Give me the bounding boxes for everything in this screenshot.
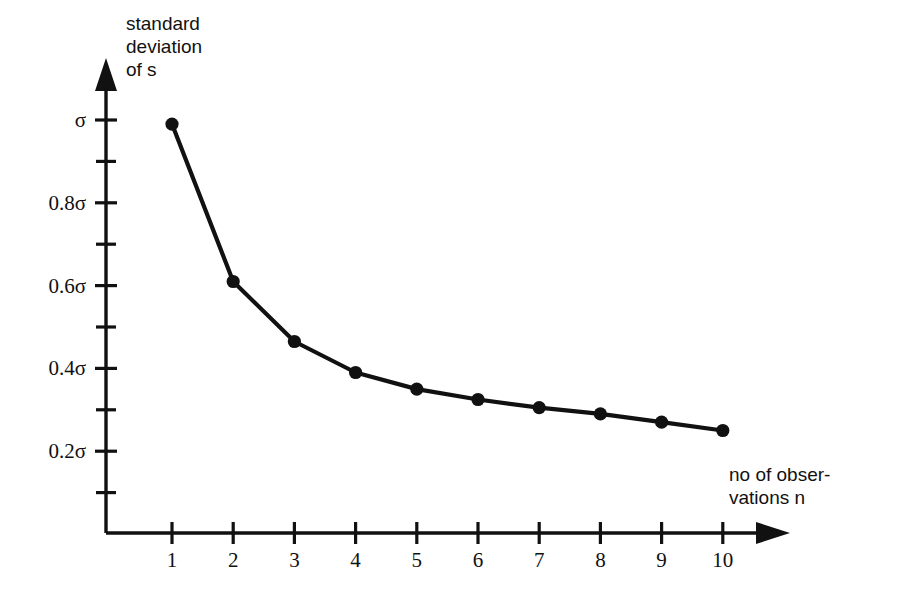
y-axis-tick-label: 0.6σ	[48, 274, 86, 298]
x-axis-title: no of obser-vations n	[729, 463, 830, 509]
x-axis-tick-label: 5	[412, 548, 423, 572]
y-axis-tick-label: 0.4σ	[48, 356, 86, 380]
data-series	[165, 118, 729, 438]
y-axis-tick-label: 0.2σ	[48, 439, 86, 463]
axis-title-line: of s	[126, 58, 202, 81]
data-point-marker	[165, 118, 178, 131]
data-point-marker	[533, 401, 546, 414]
data-point-marker	[227, 275, 240, 288]
data-point-marker	[471, 393, 484, 406]
data-point-marker	[716, 424, 729, 437]
data-point-marker	[655, 416, 668, 429]
x-axis-tick-label: 2	[228, 548, 239, 572]
axis-title-line: no of obser-	[729, 463, 830, 486]
axis-title-line: deviation	[126, 35, 202, 58]
y-axis-tick-label: σ	[75, 108, 86, 132]
series-line	[172, 124, 723, 430]
x-axis-tick-label: 7	[534, 548, 545, 572]
x-axis-tick-label: 10	[712, 548, 733, 572]
x-axis-tick-label: 1	[167, 548, 178, 572]
axis-title-line: vations n	[729, 486, 830, 509]
data-point-marker	[288, 335, 301, 348]
x-axis-tick-label: 3	[289, 548, 300, 572]
data-point-marker	[349, 366, 362, 379]
data-point-marker	[410, 383, 423, 396]
x-axis-tick-label: 8	[595, 548, 606, 572]
chart-container: σ0.8σ0.6σ0.4σ0.2σ 12345678910 standardde…	[0, 0, 900, 605]
x-axis-tick-label: 4	[350, 548, 361, 572]
x-axis-arrow-icon	[756, 522, 790, 544]
y-axis: σ0.8σ0.6σ0.4σ0.2σ	[48, 58, 117, 533]
data-point-marker	[594, 407, 607, 420]
x-axis-tick-label: 9	[656, 548, 667, 572]
y-axis-arrow-icon	[95, 58, 117, 91]
chart-canvas: σ0.8σ0.6σ0.4σ0.2σ 12345678910	[0, 0, 900, 605]
x-axis-tick-label: 6	[473, 548, 484, 572]
y-axis-title: standarddeviationof s	[126, 12, 202, 81]
x-axis: 12345678910	[106, 522, 790, 572]
axis-title-line: standard	[126, 12, 202, 35]
y-axis-tick-label: 0.8σ	[48, 191, 86, 215]
